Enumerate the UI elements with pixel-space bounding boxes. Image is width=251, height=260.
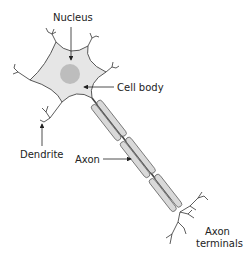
label-dendrite: Dendrite xyxy=(20,149,64,160)
label-nucleus: Nucleus xyxy=(53,12,93,23)
label-axon: Axon xyxy=(75,154,100,165)
label-cell-body: Cell body xyxy=(117,82,164,93)
neuron-diagram: Nucleus Cell body Dendrite Axon Axon ter… xyxy=(0,0,251,260)
nucleus xyxy=(60,64,80,84)
label-axon-terminals-line2: terminals xyxy=(196,238,243,249)
label-axon-terminals-line1: Axon xyxy=(205,226,230,237)
